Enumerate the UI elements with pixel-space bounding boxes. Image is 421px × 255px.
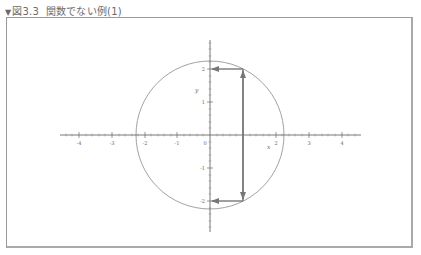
y-tick-label: 1 — [202, 99, 205, 105]
x-tick-label: 3 — [307, 140, 310, 146]
y-tick-label: 2 — [202, 66, 205, 72]
x-axis-label: x — [267, 143, 271, 150]
x-tick-label: -4 — [77, 140, 82, 146]
x-tick-label: 2 — [274, 140, 277, 146]
y-axis-label: y — [194, 86, 199, 94]
chart-canvas: -4 -3 -2 -1 0 2 3 4 2 x — [0, 0, 421, 255]
x-tick-label: -2 — [143, 140, 148, 146]
y-tick-label: -2 — [200, 198, 205, 204]
x-tick-label: 4 — [340, 140, 343, 146]
y-tick-label: -1 — [200, 165, 205, 171]
x-tick-label: 0 — [203, 140, 206, 146]
x-axis: -4 -3 -2 -1 0 2 3 4 2 x — [60, 132, 361, 150]
x-tick-label: -1 — [175, 140, 180, 146]
x-tick-label: -3 — [110, 140, 115, 146]
